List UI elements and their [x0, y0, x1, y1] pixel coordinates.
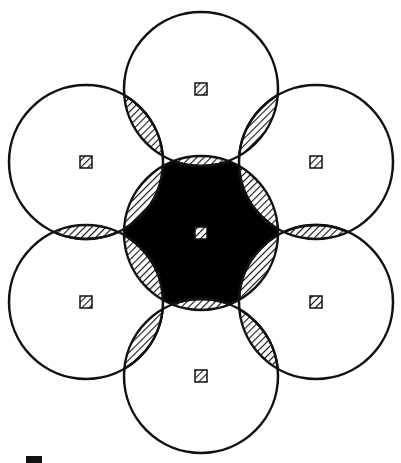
- center-marker-upper-left: [80, 156, 92, 168]
- center-marker-lower-left: [80, 296, 92, 308]
- center-marker-lower-right: [310, 296, 322, 308]
- center-marker-center: [195, 227, 207, 239]
- center-marker-upper-right: [310, 156, 322, 168]
- center-marker-top: [195, 83, 207, 95]
- center-marker-bottom: [195, 370, 207, 382]
- hexagonal-circle-diagram: [0, 0, 401, 463]
- legend-marker: [26, 456, 42, 463]
